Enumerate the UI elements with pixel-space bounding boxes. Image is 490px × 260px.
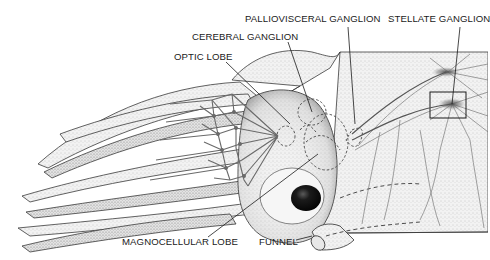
arms — [18, 82, 274, 252]
eye — [260, 168, 324, 224]
label-magnocellular-lobe: MAGNOCELLULAR LOBE — [122, 237, 238, 247]
label-optic-lobe: OPTIC LOBE — [174, 52, 233, 62]
label-cerebral-ganglion: CEREBRAL GANGLION — [192, 32, 298, 42]
label-funnel: FUNNEL — [259, 237, 298, 247]
head-hump — [232, 50, 340, 92]
label-stellate-ganglion: STELLATE GANGLION — [388, 14, 490, 24]
label-palliovisceral-ganglion: PALLIOVISCERAL GANGLION — [245, 14, 381, 24]
